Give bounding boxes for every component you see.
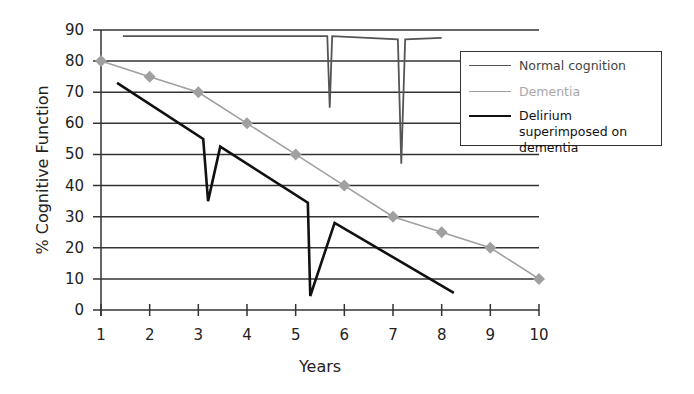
y-tick-label: 60 — [65, 114, 84, 132]
x-tick-label: 1 — [96, 326, 106, 344]
diamond-marker — [241, 117, 253, 129]
legend-swatch-normal — [469, 65, 511, 66]
y-tick-label: 80 — [65, 52, 84, 70]
diamond-marker — [95, 55, 107, 67]
x-tick-label: 8 — [437, 326, 447, 344]
legend-item-dementia: Dementia — [469, 84, 580, 100]
diamond-marker — [192, 86, 204, 98]
legend-swatch-dementia — [469, 91, 511, 92]
y-axis-title: % Cognitive Function — [33, 85, 52, 254]
legend-item-normal: Normal cognition — [469, 58, 626, 74]
x-tick-label: 5 — [291, 326, 301, 344]
legend: Normal cognition Dementia Delirium super… — [460, 51, 662, 146]
y-tick-label: 70 — [65, 83, 84, 101]
diamond-marker — [484, 242, 496, 254]
y-tick-label: 10 — [65, 270, 84, 288]
diamond-marker — [387, 211, 399, 223]
series-line-0 — [123, 36, 442, 164]
y-tick-label: 40 — [65, 177, 84, 195]
y-tick-label: 50 — [65, 145, 84, 163]
diamond-marker — [533, 273, 545, 285]
legend-label-delirium: Delirium superimposed on dementia — [519, 108, 654, 156]
x-tick-label: 10 — [529, 326, 548, 344]
x-tick-label: 7 — [388, 326, 398, 344]
x-tick-label: 9 — [486, 326, 496, 344]
y-tick-label: 20 — [65, 239, 84, 257]
diamond-marker — [290, 148, 302, 160]
x-tick-label: 2 — [145, 326, 155, 344]
legend-swatch-delirium — [469, 115, 511, 117]
legend-label-dementia: Dementia — [519, 84, 580, 100]
y-tick-label: 30 — [65, 208, 84, 226]
legend-label-normal: Normal cognition — [519, 58, 626, 74]
diamond-marker — [144, 71, 156, 83]
x-tick-label: 4 — [242, 326, 252, 344]
x-axis-title: Years — [298, 357, 341, 376]
legend-item-delirium: Delirium superimposed on dementia — [469, 108, 659, 156]
x-tick-label: 3 — [194, 326, 204, 344]
y-tick-label: 0 — [74, 301, 84, 319]
diamond-marker — [436, 226, 448, 238]
x-tick-label: 6 — [340, 326, 350, 344]
y-tick-label: 90 — [65, 21, 84, 39]
diamond-marker — [338, 180, 350, 192]
